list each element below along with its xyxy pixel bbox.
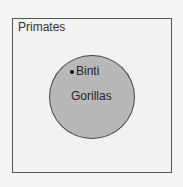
primates-label: Primates [18, 20, 65, 34]
binti-dot-icon [70, 70, 74, 74]
binti-label: Binti [76, 64, 99, 78]
gorillas-label: Gorillas [71, 89, 112, 103]
